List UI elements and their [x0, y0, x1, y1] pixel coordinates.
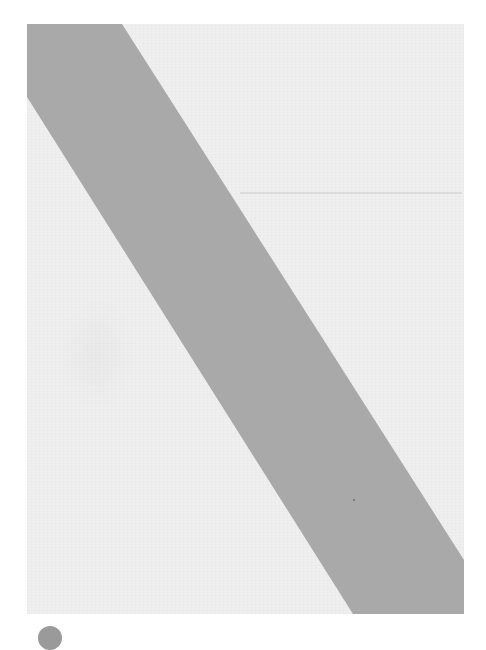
diagonal-band — [27, 24, 464, 614]
band-shape — [27, 24, 464, 614]
scanned-page — [27, 24, 464, 614]
corner-circle-mark — [38, 626, 62, 650]
dust-speck — [353, 499, 355, 501]
